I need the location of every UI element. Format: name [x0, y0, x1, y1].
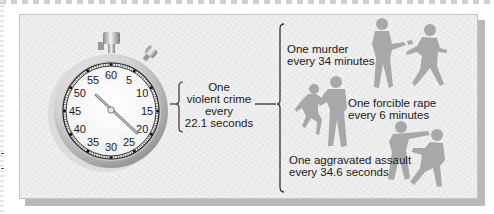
murder-line-2: every 34 minutes: [287, 55, 375, 67]
man-silhouette-icon: [318, 76, 347, 147]
murder-label: One murder every 34 minutes: [287, 43, 375, 67]
assault-line-2: every 34.6 seconds: [289, 166, 411, 178]
rape-line-2: every 6 minutes: [348, 109, 436, 121]
summary-line-4: 22.1 seconds: [181, 117, 257, 129]
woman-silhouette-icon: [295, 84, 327, 135]
summary-line-3: every: [181, 105, 257, 117]
victim-silhouette-icon: [406, 24, 447, 86]
total-violent-crime-label: One violent crime every 22.1 seconds: [181, 81, 257, 129]
rape-line-1: One forcible rape: [348, 97, 436, 109]
rape-label: One forcible rape every 6 minutes: [348, 97, 436, 121]
assault-label: One aggravated assault every 34.6 second…: [289, 154, 411, 178]
summary-line-1: One: [181, 81, 257, 93]
assault-line-1: One aggravated assault: [289, 154, 411, 166]
summary-line-2: violent crime: [181, 93, 257, 105]
murder-line-1: One murder: [287, 43, 375, 55]
